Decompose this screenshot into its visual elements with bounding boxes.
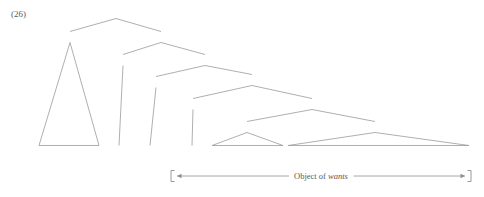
annotation-left-bracket: [171, 171, 175, 182]
annotation-right-arrowhead: [461, 174, 466, 179]
syntax-tree-svg: (26) Object of wants: [0, 0, 484, 197]
stem-INFL-to-t_infl_zero: [119, 66, 123, 146]
branch-S_low-to-VP_2: [312, 110, 375, 122]
branch-S_top-to-DP_1: [70, 19, 116, 32]
triangle-DP_2: [212, 133, 283, 146]
tree-triangles: [39, 43, 469, 146]
tree-branches: [70, 19, 375, 122]
annotation-label-italic: wants: [328, 171, 349, 181]
branch-VP_1-to-CP: [205, 66, 252, 75]
branch-VP_1-to-V: [156, 66, 205, 77]
object-of-wants-annotation: Object of wants: [171, 171, 471, 182]
branch-S_top-to-IP: [116, 19, 161, 32]
example-number: (26): [11, 9, 26, 19]
branch-IP-to-INFL: [123, 43, 161, 55]
stem-COMP-to-t_comp_zero: [192, 110, 193, 146]
triangle-VP_2: [288, 133, 469, 146]
syntax-tree-figure: (26) Object of wants: [0, 0, 484, 197]
stem-V-to-t_wants: [150, 88, 156, 146]
annotation-left-arrowhead: [177, 174, 182, 179]
branch-CP-to-S_low: [252, 86, 312, 99]
tree-stems: [119, 66, 193, 146]
annotation-label: Object of wants: [294, 171, 349, 181]
branch-S_low-to-DP_2: [247, 110, 312, 122]
annotation-right-bracket: [468, 171, 472, 182]
annotation-label-prefix: Object of: [294, 171, 328, 181]
branch-CP-to-COMP: [193, 86, 252, 99]
branch-IP-to-VP_1: [161, 43, 205, 55]
triangle-DP_1: [39, 43, 99, 146]
